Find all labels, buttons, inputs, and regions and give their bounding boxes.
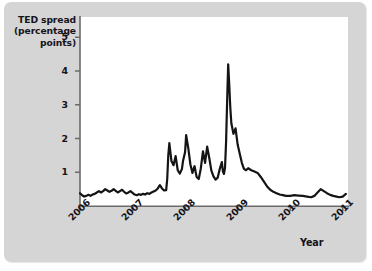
y-axis-tick-label: 1 [50,166,68,177]
y-axis-tick-label: 5 [50,31,68,42]
ted-spread-chart-figure: TED spread (percentage points) Year 1234… [0,0,372,271]
y-axis-tick-label: 4 [50,65,68,76]
y-axis-tick-label: 3 [50,99,68,110]
y-axis-tick-label: 2 [50,133,68,144]
